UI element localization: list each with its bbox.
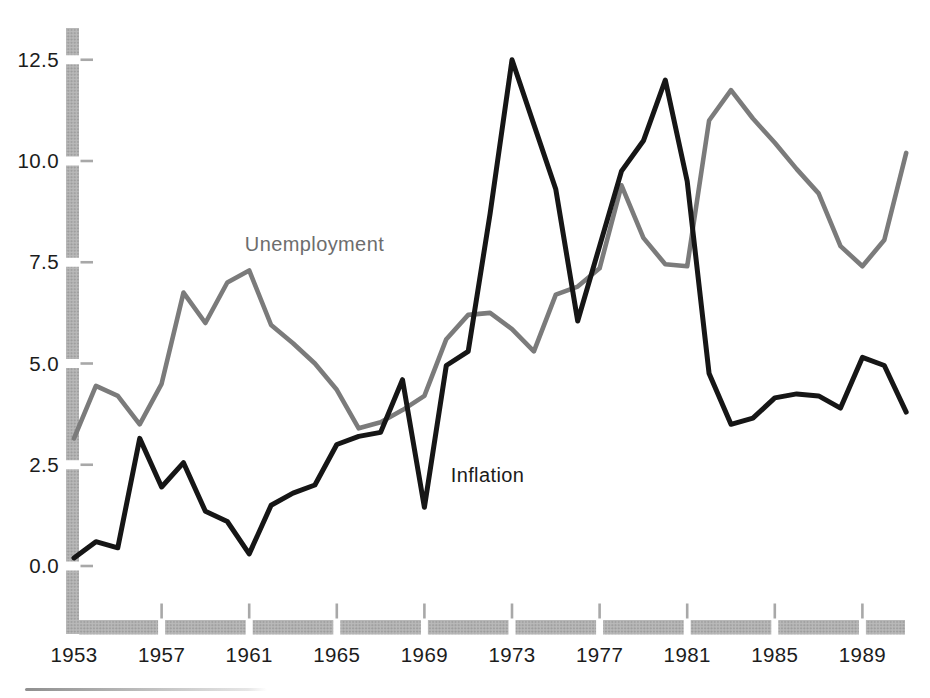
x-tick-dash: [861, 604, 864, 619]
y-tick-label-2.5: 2.5: [29, 453, 59, 476]
scan-artifact-line: [25, 688, 267, 691]
y-tick-gap: [64, 460, 81, 469]
x-tick-label-1957: 1957: [138, 643, 185, 666]
x-tick-label-1989: 1989: [839, 643, 886, 666]
x-tick-dash: [598, 604, 601, 619]
x-tick-dash: [423, 604, 426, 619]
y-tick-dash: [81, 58, 94, 61]
x-tick-label-1985: 1985: [751, 643, 798, 666]
y-tick-dash: [81, 160, 94, 163]
x-tick-label-1961: 1961: [226, 643, 273, 666]
x-tick-label-1977: 1977: [576, 643, 623, 666]
y-tick-gap: [64, 55, 81, 64]
inflation-series-label: Inflation: [451, 465, 525, 485]
x-tick-gap: [684, 618, 691, 636]
x-tick-dash: [511, 604, 514, 619]
unemployment-line: [74, 90, 906, 438]
chart-svg: 0.02.55.07.510.012.519531957196119651969…: [0, 0, 930, 698]
y-tick-gap: [64, 359, 81, 368]
y-tick-label-10.0: 10.0: [18, 149, 60, 172]
y-tick-label-7.5: 7.5: [29, 250, 59, 273]
x-tick-label-1981: 1981: [664, 643, 711, 666]
x-tick-dash: [248, 604, 251, 619]
y-tick-gap: [64, 562, 81, 571]
y-tick-label-12.5: 12.5: [18, 48, 60, 71]
x-tick-dash: [336, 604, 339, 619]
x-tick-gap: [158, 618, 165, 636]
y-tick-gap: [64, 258, 81, 267]
y-axis-bar: [66, 28, 79, 634]
figure: 0.02.55.07.510.012.519531957196119651969…: [0, 0, 930, 698]
x-tick-label-1969: 1969: [401, 643, 448, 666]
x-tick-label-1973: 1973: [488, 643, 535, 666]
x-tick-label-1953: 1953: [50, 643, 97, 666]
x-tick-label-1965: 1965: [313, 643, 360, 666]
y-tick-dash: [81, 261, 94, 264]
y-tick-dash: [81, 362, 94, 365]
x-tick-dash: [160, 604, 163, 619]
x-axis-bar: [79, 620, 905, 635]
y-tick-dash: [81, 463, 94, 466]
x-tick-gap: [421, 618, 428, 636]
x-tick-gap: [333, 618, 340, 636]
y-tick-dash: [81, 565, 94, 568]
x-tick-gap: [596, 618, 603, 636]
unemployment-series-label: Unemployment: [245, 234, 384, 254]
x-tick-gap: [509, 618, 516, 636]
x-tick-dash: [774, 604, 777, 619]
x-tick-gap: [771, 618, 778, 636]
x-tick-gap: [246, 618, 253, 636]
x-tick-gap: [859, 618, 866, 636]
x-tick-dash: [686, 604, 689, 619]
y-tick-label-0.0: 0.0: [29, 554, 59, 577]
y-tick-label-5.0: 5.0: [29, 352, 59, 375]
y-tick-gap: [64, 157, 81, 166]
